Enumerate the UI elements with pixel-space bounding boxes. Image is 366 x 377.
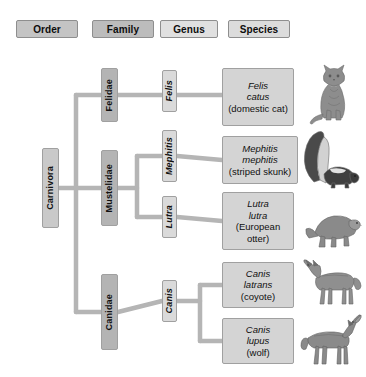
family-box-mustelidae: Mustelidae [101,150,118,226]
family-box-felidae: Felidae [101,68,118,122]
species-common-name: (European otter) [226,221,290,244]
genus-label-mephitis: Mephitis [165,137,174,175]
species-epithet-line: latrans [244,279,273,291]
order-box-carnivora: Carnivora [42,148,59,228]
species-box-felis-catus: Felis catus (domestic cat) [222,68,294,126]
cat-illustration [308,64,360,126]
species-common-name: (coyote) [241,291,275,303]
cladogram-diagram: Order Family Genus Species [0,0,366,377]
family-label-mustelidae: Mustelidae [105,164,114,213]
genus-box-canis: Canis [162,280,177,322]
wire-mephitis-to-species [177,156,222,160]
family-box-canidae: Canidae [101,274,118,350]
species-common-name: (domestic cat) [228,103,288,115]
species-epithet-line: mephitis [242,154,277,166]
species-box-canis-latrans: Canis latrans (coyote) [222,262,294,308]
order-label-carnivora: Carnivora [46,166,55,210]
genus-box-lutra: Lutra [162,196,177,238]
species-epithet-line: catus [247,91,270,103]
species-box-canis-lupus: Canis lupus (wolf) [222,318,294,364]
species-genus-line: Felis [248,80,268,92]
species-common-name: (wolf) [246,347,269,359]
species-genus-line: Canis [246,324,270,336]
family-label-canidae: Canidae [105,294,114,330]
species-epithet-line: lupus [247,335,270,347]
genus-label-canis: Canis [165,288,174,314]
wire-lutra-to-species [177,217,222,221]
species-genus-line: Mephitis [242,143,277,155]
species-box-mephitis-mephitis: Mephitis mephitis (striped skunk) [222,136,298,184]
species-common-name: (striped skunk) [229,166,291,178]
coyote-illustration [300,258,362,308]
genus-label-lutra: Lutra [165,205,174,229]
wolf-illustration [300,312,362,368]
genus-label-felis: Felis [165,80,174,102]
genus-box-felis: Felis [162,70,177,112]
species-epithet-line: lutra [249,210,267,222]
genus-box-mephitis: Mephitis [162,130,177,182]
species-genus-line: Lutra [247,198,269,210]
skunk-illustration [300,128,360,190]
otter-illustration [304,196,362,252]
wire-canidae-to-canis [118,301,162,312]
species-genus-line: Canis [246,268,270,280]
species-box-lutra-lutra: Lutra lutra (European otter) [222,192,294,250]
family-label-felidae: Felidae [105,79,114,111]
